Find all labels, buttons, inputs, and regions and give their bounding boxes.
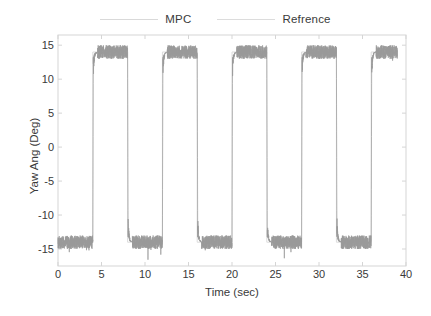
figure-panel: MPC Refrence Yaw Ang (Deg) Time (sec) 15… bbox=[0, 0, 431, 316]
plot-canvas bbox=[0, 0, 431, 316]
series-reference-line bbox=[58, 52, 397, 242]
series-mpc-line bbox=[58, 45, 397, 260]
